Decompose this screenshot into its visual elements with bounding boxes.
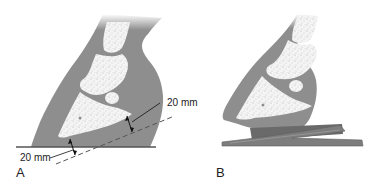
navicular-bone-a — [105, 92, 119, 104]
panel-label-a: A — [16, 165, 25, 180]
measure-label-upper: 20 mm — [167, 97, 198, 108]
measure-label-lower: 20 mm — [20, 152, 51, 163]
lower-leader-line — [50, 150, 73, 158]
panel-a: 20 mm 20 mm A — [16, 14, 198, 180]
foramen-mark-b — [262, 104, 265, 107]
foramen-mark-a — [79, 117, 82, 120]
hoof-diagram: 20 mm 20 mm A B — [0, 0, 378, 190]
navicular-bone-b — [289, 80, 303, 92]
panel-label-b: B — [216, 165, 225, 180]
panel-b: B — [216, 14, 363, 180]
arrowhead-icon — [73, 150, 77, 155]
